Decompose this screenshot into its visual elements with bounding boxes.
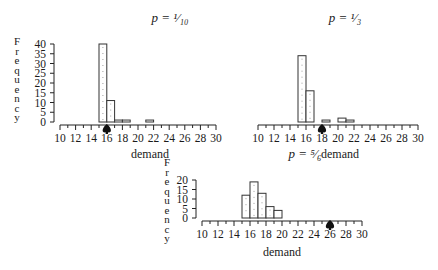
estimate-marker-stem	[329, 227, 331, 230]
y-tick-label: 20	[177, 174, 189, 186]
x-tick-label: 30	[412, 132, 424, 144]
estimate-marker-stem	[321, 131, 323, 134]
x-tick-label: 14	[284, 132, 296, 144]
x-tick-label: 30	[210, 132, 222, 144]
x-axis-label: demand	[321, 147, 359, 161]
x-tick-label: 20	[332, 132, 344, 144]
chart-title: p = ¹⁄₃	[328, 10, 361, 25]
x-tick-label: 26	[380, 132, 392, 144]
x-tick-label: 10	[54, 132, 66, 144]
chart-title: p = ⁵⁄₆	[288, 146, 322, 161]
histogram-bar	[122, 120, 130, 122]
estimate-marker-stem	[106, 131, 108, 134]
x-tick-label: 22	[348, 132, 360, 144]
x-tick-label: 28	[340, 228, 352, 240]
x-tick-label: 24	[163, 132, 175, 144]
x-tick-label: 12	[212, 228, 224, 240]
x-tick-label: 16	[300, 132, 312, 144]
x-tick-label: 18	[260, 228, 272, 240]
histogram-bar	[146, 120, 154, 122]
histogram-bar	[338, 118, 346, 122]
x-tick-label: 28	[195, 132, 207, 144]
x-tick-label: 28	[396, 132, 408, 144]
histogram-bar	[266, 207, 274, 218]
y-axis-label-letter: y	[14, 111, 20, 123]
x-tick-label: 14	[228, 228, 240, 240]
histogram-p-5-6: p = ⁵⁄₆1012141618202224262830demand05101…	[164, 146, 368, 259]
x-tick-label: 16	[244, 228, 256, 240]
x-tick-label: 14	[85, 132, 97, 144]
histogram-bar	[322, 120, 330, 122]
x-tick-label: 22	[292, 228, 304, 240]
x-tick-label: 24	[364, 132, 376, 144]
x-tick-label: 12	[268, 132, 280, 144]
x-tick-label: 10	[196, 228, 208, 240]
x-tick-label: 12	[70, 132, 82, 144]
x-tick-label: 20	[276, 228, 288, 240]
x-tick-label: 20	[132, 132, 144, 144]
histogram-bar	[346, 120, 354, 122]
x-tick-label: 22	[148, 132, 160, 144]
histogram-p-1-3: p = ¹⁄₃1012141618202224262830demand	[252, 10, 424, 161]
histogram-bar	[250, 182, 258, 218]
x-tick-label: 30	[356, 228, 368, 240]
x-axis-label: demand	[263, 245, 301, 259]
histogram-bar	[115, 120, 123, 122]
x-tick-label: 26	[179, 132, 191, 144]
histogram-figure: p = ¹⁄₁₀1012141618202224262830demand0510…	[0, 0, 438, 270]
histogram-bar	[274, 210, 282, 218]
x-tick-label: 10	[252, 132, 264, 144]
chart-title: p = ¹⁄₁₀	[151, 10, 189, 25]
x-tick-label: 24	[308, 228, 320, 240]
y-tick-label: 40	[35, 38, 47, 50]
y-axis-label-letter: y	[164, 232, 170, 244]
x-tick-label: 18	[117, 132, 129, 144]
histogram-p-1-10: p = ¹⁄₁₀1012141618202224262830demand0510…	[14, 10, 222, 161]
